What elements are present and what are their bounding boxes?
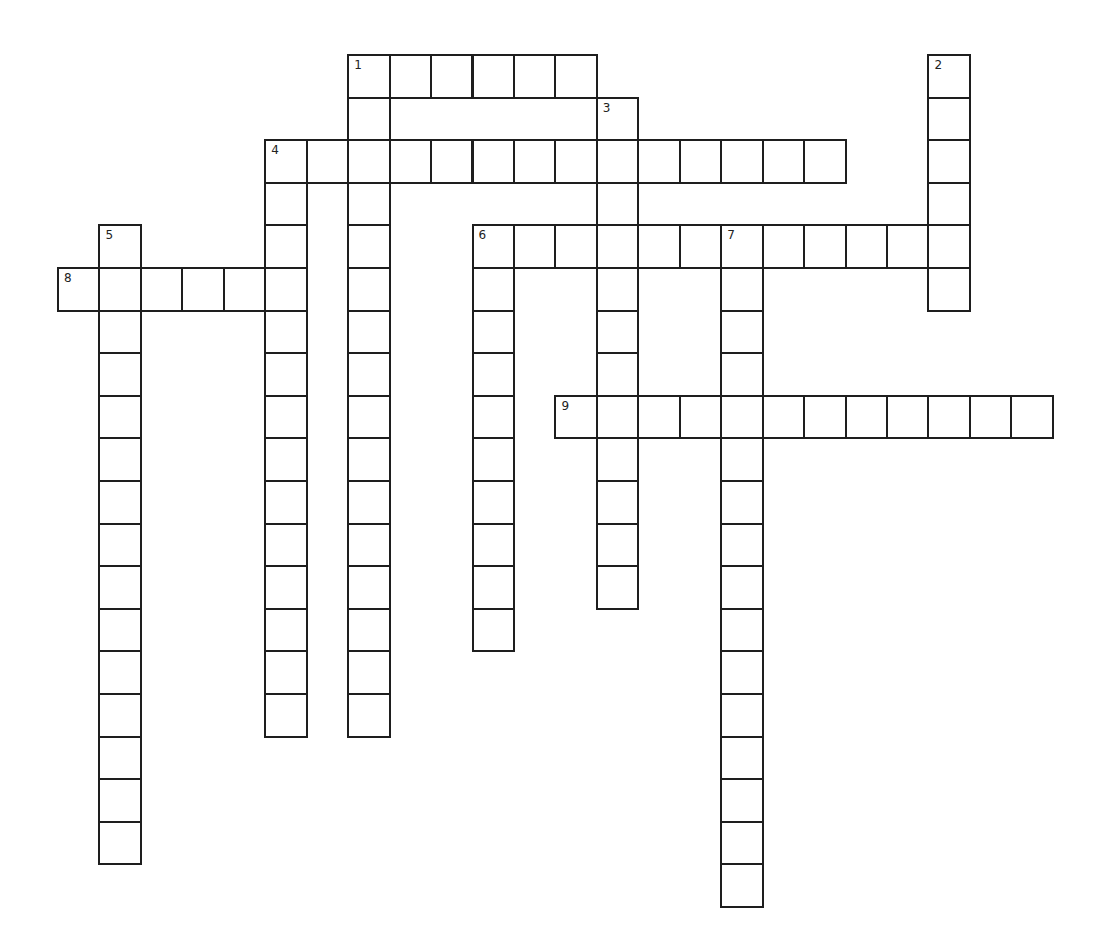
crossword-cell[interactable] [720, 352, 763, 397]
crossword-cell[interactable] [389, 54, 432, 99]
crossword-cell[interactable] [347, 693, 390, 738]
crossword-cell[interactable]: 7 [720, 224, 763, 269]
crossword-cell[interactable] [679, 224, 722, 269]
crossword-cell[interactable] [98, 267, 141, 312]
crossword-cell[interactable] [596, 352, 639, 397]
crossword-cell[interactable] [98, 310, 141, 355]
crossword-cell[interactable] [264, 182, 307, 227]
crossword-cell[interactable] [927, 97, 970, 142]
crossword-cell[interactable] [264, 565, 307, 610]
crossword-cell[interactable] [596, 224, 639, 269]
crossword-cell[interactable] [720, 693, 763, 738]
crossword-cell[interactable] [347, 608, 390, 653]
crossword-cell[interactable] [969, 395, 1012, 440]
crossword-cell[interactable] [140, 267, 183, 312]
crossword-cell[interactable] [264, 224, 307, 269]
crossword-cell[interactable] [720, 139, 763, 184]
crossword-cell[interactable] [472, 395, 515, 440]
crossword-cell[interactable] [264, 352, 307, 397]
crossword-cell[interactable] [98, 693, 141, 738]
crossword-cell[interactable] [720, 736, 763, 781]
crossword-cell[interactable] [927, 395, 970, 440]
crossword-cell[interactable] [927, 267, 970, 312]
crossword-cell[interactable] [389, 139, 432, 184]
crossword-cell[interactable] [430, 54, 473, 99]
crossword-cell[interactable] [98, 437, 141, 482]
crossword-cell[interactable] [430, 139, 473, 184]
crossword-cell[interactable] [472, 267, 515, 312]
crossword-cell[interactable] [596, 437, 639, 482]
crossword-cell[interactable] [803, 139, 846, 184]
crossword-cell[interactable] [98, 565, 141, 610]
crossword-cell[interactable] [264, 523, 307, 568]
crossword-cell[interactable] [347, 523, 390, 568]
crossword-cell[interactable] [845, 395, 888, 440]
crossword-cell[interactable]: 8 [57, 267, 100, 312]
crossword-cell[interactable] [347, 139, 390, 184]
crossword-cell[interactable] [679, 139, 722, 184]
crossword-cell[interactable]: 1 [347, 54, 390, 99]
crossword-cell[interactable] [347, 480, 390, 525]
crossword-cell[interactable] [554, 224, 597, 269]
crossword-cell[interactable] [264, 608, 307, 653]
crossword-cell[interactable] [720, 395, 763, 440]
crossword-cell[interactable] [927, 139, 970, 184]
crossword-cell[interactable] [472, 608, 515, 653]
crossword-cell[interactable] [347, 650, 390, 695]
crossword-cell[interactable] [347, 352, 390, 397]
crossword-cell[interactable] [347, 310, 390, 355]
crossword-cell[interactable] [98, 778, 141, 823]
crossword-cell[interactable] [596, 310, 639, 355]
crossword-cell[interactable] [347, 97, 390, 142]
crossword-cell[interactable] [596, 182, 639, 227]
crossword-cell[interactable]: 4 [264, 139, 307, 184]
crossword-cell[interactable] [98, 480, 141, 525]
crossword-cell[interactable] [720, 778, 763, 823]
crossword-cell[interactable] [472, 480, 515, 525]
crossword-cell[interactable] [223, 267, 266, 312]
crossword-cell[interactable] [720, 310, 763, 355]
crossword-cell[interactable] [347, 224, 390, 269]
crossword-cell[interactable] [472, 523, 515, 568]
crossword-cell[interactable] [554, 54, 597, 99]
crossword-cell[interactable] [98, 352, 141, 397]
crossword-cell[interactable]: 6 [472, 224, 515, 269]
crossword-cell[interactable] [98, 736, 141, 781]
crossword-cell[interactable] [98, 608, 141, 653]
crossword-cell[interactable] [264, 437, 307, 482]
crossword-cell[interactable] [472, 139, 515, 184]
crossword-cell[interactable] [720, 650, 763, 695]
crossword-cell[interactable]: 5 [98, 224, 141, 269]
crossword-cell[interactable] [762, 224, 805, 269]
crossword-cell[interactable] [347, 267, 390, 312]
crossword-cell[interactable] [596, 395, 639, 440]
crossword-cell[interactable] [264, 267, 307, 312]
crossword-cell[interactable] [596, 565, 639, 610]
crossword-cell[interactable] [264, 650, 307, 695]
crossword-cell[interactable] [98, 523, 141, 568]
crossword-cell[interactable] [181, 267, 224, 312]
crossword-cell[interactable] [720, 437, 763, 482]
crossword-cell[interactable] [596, 139, 639, 184]
crossword-cell[interactable] [720, 267, 763, 312]
crossword-cell[interactable] [264, 480, 307, 525]
crossword-cell[interactable] [513, 139, 556, 184]
crossword-cell[interactable] [1010, 395, 1053, 440]
crossword-cell[interactable] [886, 224, 929, 269]
crossword-cell[interactable]: 9 [554, 395, 597, 440]
crossword-cell[interactable] [98, 395, 141, 440]
crossword-cell[interactable] [264, 310, 307, 355]
crossword-cell[interactable] [720, 821, 763, 866]
crossword-cell[interactable]: 3 [596, 97, 639, 142]
crossword-cell[interactable] [347, 437, 390, 482]
crossword-cell[interactable] [472, 310, 515, 355]
crossword-cell[interactable] [720, 608, 763, 653]
crossword-cell[interactable] [472, 437, 515, 482]
crossword-cell[interactable] [679, 395, 722, 440]
crossword-cell[interactable] [347, 565, 390, 610]
crossword-cell[interactable] [927, 182, 970, 227]
crossword-cell[interactable] [98, 821, 141, 866]
crossword-cell[interactable] [720, 565, 763, 610]
crossword-cell[interactable] [472, 352, 515, 397]
crossword-cell[interactable] [347, 395, 390, 440]
